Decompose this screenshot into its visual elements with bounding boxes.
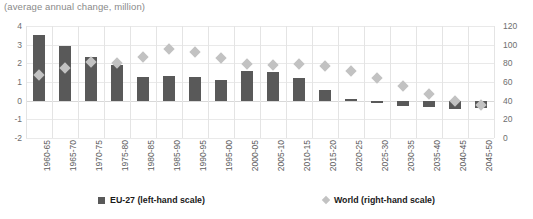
legend-label: EU-27 (left-hand scale) [110,195,205,205]
x-tick-label-2000-05: 2000-05 [251,140,260,171]
right-tick-label: 100 [503,41,533,49]
marker-2005-10 [267,60,278,71]
plot-area [26,26,494,138]
category-separator [494,26,495,138]
x-tick-label-2010-15: 2010-15 [303,140,312,171]
marker-1970-75 [85,56,96,67]
gridline--2 [26,138,494,139]
right-tick-label: 80 [503,59,533,67]
right-tick-label: 20 [503,115,533,123]
marker-1960-65 [33,69,44,80]
left-tick-label: 2 [2,59,22,67]
x-tick-label-2005-10: 2005-10 [277,140,286,171]
marker-2030-35 [397,80,408,91]
marker-1990-95 [189,46,200,57]
x-tick-label-2030-35: 2030-35 [407,140,416,171]
marker-2010-15 [293,59,304,70]
x-tick-label-2045-50: 2045-50 [485,140,494,171]
marker-2015-20 [319,60,330,71]
x-tick-label-1995-00: 1995-00 [225,140,234,171]
left-tick-label: 1 [2,78,22,86]
marker-2035-40 [423,88,434,99]
marker-series-world [26,26,494,138]
x-tick-label-1965-70: 1965-70 [69,140,78,171]
x-tick-label-2015-20: 2015-20 [329,140,338,171]
marker-1980-85 [137,51,148,62]
x-tick-label-1980-85: 1980-85 [147,140,156,171]
legend-item[interactable]: EU-27 (left-hand scale) [98,195,205,205]
legend-item[interactable]: World (right-hand scale) [323,195,435,205]
population-change-chart: (average annual change, million) 43210-1… [0,0,533,219]
x-tick-label-2020-25: 2020-25 [355,140,364,171]
right-tick-label: 0 [503,134,533,142]
marker-2045-50 [475,100,486,111]
marker-2040-45 [449,95,460,106]
x-tick-label-1960-65: 1960-65 [43,140,52,171]
x-tick-label-2040-45: 2040-45 [459,140,468,171]
square-icon [98,197,105,204]
diamond-icon [322,196,330,204]
x-tick-label-2025-30: 2025-30 [381,140,390,171]
legend-label: World (right-hand scale) [334,195,435,205]
left-tick-label: 3 [2,41,22,49]
x-tick-label-2035-40: 2035-40 [433,140,442,171]
marker-1995-00 [215,52,226,63]
right-tick-label: 40 [503,97,533,105]
x-axis-ticks: 1960-651965-701970-751975-801980-851985-… [26,140,494,188]
x-tick-label-1990-95: 1990-95 [199,140,208,171]
x-tick-label-1970-75: 1970-75 [95,140,104,171]
left-tick-label: -2 [2,134,22,142]
marker-1975-80 [111,58,122,69]
x-tick-label-1975-80: 1975-80 [121,140,130,171]
marker-1965-70 [59,62,70,73]
chart-title: (average annual change, million) [4,1,145,12]
marker-2020-25 [345,65,356,76]
left-tick-label: -1 [2,115,22,123]
left-tick-label: 4 [2,22,22,30]
right-tick-label: 120 [503,22,533,30]
right-tick-label: 60 [503,78,533,86]
chart-legend: EU-27 (left-hand scale)World (right-hand… [0,192,533,208]
marker-1985-90 [163,44,174,55]
marker-2025-30 [371,73,382,84]
left-tick-label: 0 [2,97,22,105]
x-tick-label-1985-90: 1985-90 [173,140,182,171]
marker-2000-05 [241,59,252,70]
